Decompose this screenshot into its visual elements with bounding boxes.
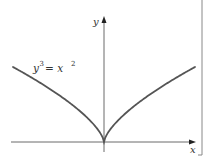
y-axis-arrow-icon	[102, 16, 107, 23]
svg-text:= x: = x	[45, 62, 63, 74]
y-axis-label: y	[92, 16, 99, 27]
x-axis-label: x	[190, 144, 196, 155]
chart: x y y 3 = x 2	[0, 0, 205, 161]
svg-text:3: 3	[40, 60, 44, 68]
svg-text:2: 2	[71, 60, 75, 68]
curve-label: y 3 = x 2	[32, 60, 75, 74]
